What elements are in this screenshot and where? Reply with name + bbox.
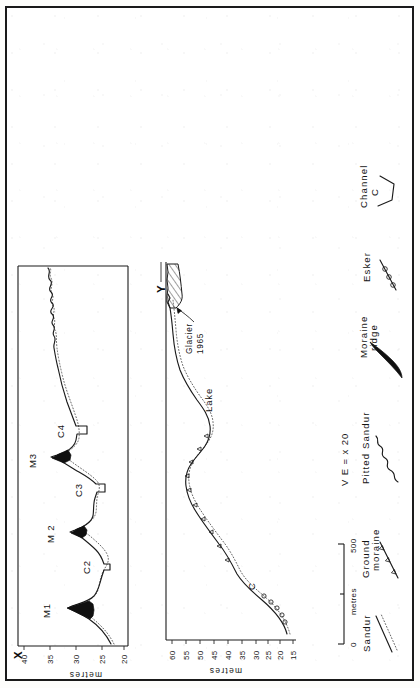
profile-y-tick-45: 45 bbox=[210, 650, 219, 660]
legend-panel: Sandur Ground moraine bbox=[358, 114, 414, 674]
vertical-exaggeration-label: V E = x 20 bbox=[339, 432, 350, 485]
legend-item-channel: C Channel bbox=[358, 164, 394, 207]
profile-y-tick-60: 60 bbox=[168, 650, 177, 660]
legend-item-ground-moraine: Ground moraine bbox=[360, 528, 398, 577]
scale-bar-unit-label: metres bbox=[349, 588, 358, 615]
profile-y-label-lake: Lake bbox=[203, 387, 214, 411]
profile-x-label-m1: M1 bbox=[41, 603, 52, 618]
profile-y-tick-15: 15 bbox=[289, 650, 298, 660]
profile-y-endpoint: Y bbox=[155, 262, 167, 293]
profile-y-tick-20: 20 bbox=[276, 650, 285, 660]
profile-x-tick-35: 35 bbox=[46, 654, 55, 664]
profile-x-label-c2: C2 bbox=[81, 560, 92, 574]
figure-frame: X 40 35 30 25 20 metres M1 C2 M 2 C3 M3 … bbox=[5, 6, 414, 681]
pitted-sandur-icon bbox=[376, 436, 398, 482]
glacier-label-line2: 1965 bbox=[196, 332, 205, 353]
legend-label-ground-moraine-line2: moraine bbox=[370, 528, 381, 570]
profile-y-panel: C Lake Glacier 1965 Y bbox=[156, 254, 316, 674]
sandur-icon bbox=[376, 614, 397, 652]
profile-y-endpoint-label: Y bbox=[155, 284, 167, 293]
profile-x-tick-40: 40 bbox=[20, 654, 29, 664]
legend-label-channel: Channel bbox=[358, 164, 369, 207]
legend-label-sandur: Sandur bbox=[361, 614, 372, 652]
glacier-1965-annotation: Glacier 1965 bbox=[177, 308, 205, 354]
channel-icon: C bbox=[369, 176, 394, 206]
profile-y-tick-30: 30 bbox=[252, 650, 261, 660]
profile-x-label-m2: M 2 bbox=[45, 524, 56, 543]
profile-x-tick-20: 20 bbox=[120, 654, 129, 664]
profile-y-axis-name: metres bbox=[208, 666, 241, 676]
profile-y-tick-50: 50 bbox=[196, 650, 205, 660]
scanned-page: X 40 35 30 25 20 metres M1 C2 M 2 C3 M3 … bbox=[0, 0, 420, 688]
profile-x-label-m3: M3 bbox=[27, 453, 38, 468]
ground-moraine-triangles-y bbox=[185, 434, 229, 562]
profile-x-svg: X 40 35 30 25 20 metres M1 C2 M 2 C3 M3 … bbox=[10, 254, 150, 674]
profile-y-axes bbox=[166, 262, 296, 640]
esker-circles-y bbox=[261, 593, 286, 623]
legend-item-sandur: Sandur bbox=[361, 614, 397, 652]
channel-glyph-c: C bbox=[369, 187, 380, 195]
profile-x-label-c4: C4 bbox=[55, 424, 66, 438]
profile-y-svg: C Lake Glacier 1965 Y bbox=[156, 254, 316, 674]
legend-label-pitted-sandur: Pitted Sandur bbox=[360, 411, 371, 483]
moraine-ridge-m2 bbox=[71, 526, 87, 538]
profile-y-tick-40: 40 bbox=[224, 650, 233, 660]
legend-item-pitted-sandur: Pitted Sandur bbox=[360, 411, 398, 483]
legend-svg: Sandur Ground moraine bbox=[358, 114, 414, 674]
ground-moraine-icon bbox=[379, 542, 398, 578]
scale-bar-end-label: 500 bbox=[349, 538, 358, 553]
legend-label-moraine-ridge-line2: ridge bbox=[368, 324, 379, 351]
glacier-1965-hatched-area bbox=[167, 264, 182, 308]
profile-x-tick-25: 25 bbox=[98, 654, 107, 664]
legend-label-ground-moraine-line1: Ground bbox=[360, 539, 371, 578]
profile-x-tick-30: 30 bbox=[72, 654, 81, 664]
legend-item-moraine-ridge: Moraine ridge bbox=[358, 315, 402, 377]
rotated-figure-canvas: X 40 35 30 25 20 metres M1 C2 M 2 C3 M3 … bbox=[6, 6, 414, 682]
legend-label-esker: Esker bbox=[361, 251, 372, 281]
glacier-label-line1: Glacier bbox=[185, 323, 194, 354]
scale-bar-start-label: 0 bbox=[349, 642, 358, 647]
profile-x-label-c3: C3 bbox=[73, 483, 84, 497]
profile-y-tick-35: 35 bbox=[238, 650, 247, 660]
scale-bar: 0 metres 500 bbox=[338, 538, 358, 647]
legend-item-esker: Esker bbox=[361, 251, 396, 289]
profile-x-panel: X 40 35 30 25 20 metres M1 C2 M 2 C3 M3 … bbox=[10, 254, 150, 674]
legend-label-moraine-ridge-line1: Moraine bbox=[358, 315, 369, 357]
profile-y-tick-25: 25 bbox=[264, 650, 273, 660]
profile-y-label-channel-c: C bbox=[246, 582, 257, 590]
profile-y-tick-55: 55 bbox=[182, 650, 191, 660]
esker-icon bbox=[380, 260, 396, 290]
profile-x-axis-name: metres bbox=[68, 670, 101, 680]
